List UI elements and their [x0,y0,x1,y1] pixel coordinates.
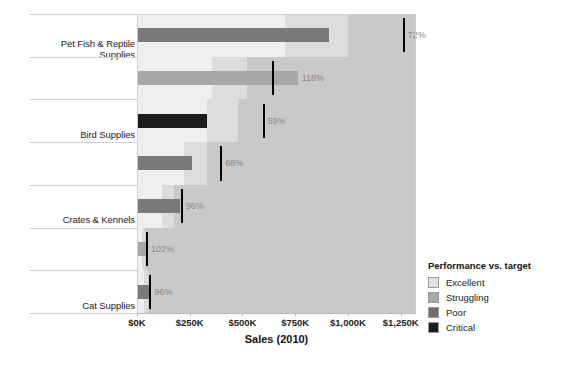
plot-right-border [415,14,416,313]
legend-label: Critical [446,322,475,333]
percent-of-target-label: 59% [268,116,286,126]
measure-bar [137,199,180,213]
percent-of-target-label: 72% [408,30,426,40]
legend-swatch [428,322,439,333]
x-axis-tick [137,313,138,316]
x-axis-tick-label: $250K [176,317,204,328]
x-axis-tick-label: $500K [228,317,256,328]
x-axis-tick [295,313,296,316]
chart-row: Cat Supplies68% [0,142,420,185]
x-axis-line [137,313,416,314]
x-axis-tick-label: $0K [128,317,145,328]
x-axis-tick-label: $1,000K [330,317,366,328]
legend-swatch [428,292,439,303]
x-axis-tick [190,313,191,316]
measure-bar [137,156,192,170]
qualitative-range-bands [137,228,415,271]
measure-bar [137,285,150,299]
plot-top-border [30,14,416,15]
measure-bar [137,114,207,128]
percent-of-target-label: 118% [302,73,324,83]
chart-row: Bird Supplies118% [0,57,420,100]
target-marker [149,275,151,309]
legend-item[interactable]: Critical [428,320,564,335]
target-marker [146,232,148,266]
target-marker [272,61,274,95]
target-marker [181,189,183,223]
chart-row: Pet Beds96% [0,270,420,313]
legend-label: Excellent [446,277,485,288]
percent-of-target-label: 96% [186,201,204,211]
plot-left-border [137,14,138,313]
legend-swatch [428,277,439,288]
legend-item[interactable]: Poor [428,305,564,320]
x-axis-tick [242,313,243,316]
legend-label: Poor [446,307,466,318]
range-band [137,228,415,271]
target-marker [403,18,405,52]
x-axis-title: Sales (2010) [137,333,416,345]
measure-bar [137,28,329,42]
percent-of-target-label: 96% [154,287,172,297]
bullet-chart-figure: Pet Fish & ReptileSupplies72%Bird Suppli… [0,0,568,374]
x-axis-tick-label: $1,250K [383,317,419,328]
chart-row: Crates & Kennels59% [0,99,420,142]
x-axis-tick [401,313,402,316]
x-axis-tick [348,313,349,316]
legend-items: ExcellentStrugglingPoorCritical [428,275,564,335]
target-marker [220,146,222,180]
category-label-line: Pet Fish & Reptile [30,38,135,50]
x-axis-tick-label: $750K [281,317,309,328]
chart-row: Collars, Harnesses &Leashes96% [0,185,420,228]
legend-title: Performance vs. target [428,260,564,271]
range-band [137,270,415,313]
legend: Performance vs. target ExcellentStruggli… [428,260,564,335]
percent-of-target-label: 68% [225,158,243,168]
target-marker [263,104,265,138]
chart-row: Pet Gates & Pet Doors102% [0,228,420,271]
percent-of-target-label: 102% [151,244,174,254]
qualitative-range-bands [137,270,415,313]
legend-swatch [428,307,439,318]
legend-item[interactable]: Struggling [428,290,564,305]
chart-row: Pet Fish & ReptileSupplies72% [0,14,420,57]
legend-label: Struggling [446,292,489,303]
legend-item[interactable]: Excellent [428,275,564,290]
